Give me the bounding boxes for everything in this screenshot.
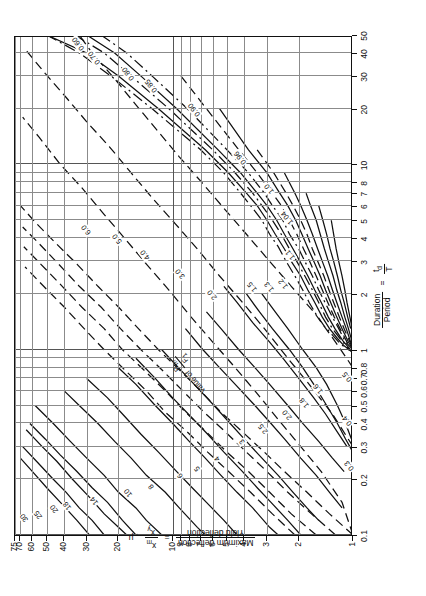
response-curve: [25, 267, 295, 535]
x-tick-mark: [352, 406, 357, 407]
x-tick-label: 8: [359, 181, 369, 186]
response-curve: [306, 193, 352, 342]
x-tick-label: 10: [359, 161, 369, 170]
gridline-vertical: [15, 172, 351, 173]
gridline-vertical: [15, 422, 351, 423]
y-tick-mark: [19, 536, 20, 541]
curve-family: [15, 36, 352, 535]
y-tick-label: 1: [347, 542, 357, 570]
response-curve: [79, 36, 352, 368]
y-axis-ratio: xm xy: [145, 526, 159, 550]
y-axis-ratio-denominator: xy: [145, 526, 159, 538]
x-tick-mark: [352, 206, 357, 207]
x-axis-ratio: td T: [372, 264, 393, 274]
x-tick-mark: [352, 447, 357, 448]
gridline-vertical: [15, 164, 351, 165]
x-tick-mark: [352, 238, 357, 239]
x-tick-mark: [352, 76, 357, 77]
gridline-vertical: [15, 219, 351, 220]
gridline-horizontal: [64, 37, 65, 535]
response-curve: [20, 458, 89, 535]
x-tick-mark: [352, 391, 357, 392]
x-axis-equals: =: [378, 276, 387, 289]
x-tick-label: 3: [359, 260, 369, 265]
x-tick-label: 20: [359, 105, 369, 114]
x-tick-mark: [352, 479, 357, 480]
gridline-horizontal: [299, 37, 300, 535]
x-tick-label: 6: [359, 204, 369, 209]
y-tick-label: 75: [9, 542, 19, 570]
x-axis-ratio-numerator: td: [372, 264, 385, 274]
x-tick-label: 0.1: [359, 530, 369, 542]
x-tick-label: 0.8: [359, 363, 369, 375]
y-axis-title: Maximum deflection Yield deflection = xm…: [60, 526, 320, 550]
x-tick-mark: [352, 261, 357, 262]
x-tick-label: 1: [359, 348, 369, 353]
gridline-vertical: [15, 205, 351, 206]
x-tick-label: 5: [359, 219, 369, 224]
x-axis-ratio-denominator: T: [385, 264, 394, 274]
x-axis-title-fraction: Duration Period: [373, 292, 392, 328]
gridline-vertical: [15, 237, 351, 238]
gridline-horizontal: [181, 37, 182, 535]
gridline-vertical: [15, 181, 351, 182]
x-tick-mark: [352, 165, 357, 166]
y-axis-title-fraction: Maximum deflection Yield deflection: [176, 529, 256, 548]
y-tick-mark: [14, 536, 15, 541]
x-tick-label: 40: [359, 49, 369, 58]
x-axis-title-denominator: Period: [383, 292, 392, 328]
x-tick-mark: [352, 109, 357, 110]
gridline-vertical: [15, 390, 351, 391]
x-tick-label: 50: [359, 31, 369, 40]
gridline-horizontal: [47, 37, 48, 535]
response-curve: [185, 329, 342, 508]
x-tick-mark: [352, 35, 357, 36]
x-tick-mark: [352, 368, 357, 369]
gridline-vertical: [15, 75, 351, 76]
gridline-vertical: [15, 108, 351, 109]
gridline-vertical: [15, 478, 351, 479]
x-tick-label: 0.5: [359, 401, 369, 413]
x-tick-label: 4: [359, 237, 369, 242]
x-tick-mark: [352, 350, 357, 351]
gridline-vertical: [15, 192, 351, 193]
x-tick-label: 2: [359, 293, 369, 298]
gridline-vertical: [15, 260, 351, 261]
x-tick-mark: [352, 220, 357, 221]
gridline-vertical: [15, 446, 351, 447]
x-tick-label: 0.7: [359, 374, 369, 386]
x-tick-label: 0.6: [359, 386, 369, 398]
chart-stage: 0.10.20.30.40.50.60.70.81234567810203040…: [0, 0, 426, 596]
x-tick-label: 30: [359, 72, 369, 81]
x-tick-label: 0.2: [359, 474, 369, 486]
x-tick-mark: [352, 182, 357, 183]
y-axis-ratio-numerator: xm: [145, 538, 159, 551]
x-tick-mark: [352, 193, 357, 194]
x-tick-mark: [352, 294, 357, 295]
rotated-figure-wrapper: 0.10.20.30.40.50.60.70.81234567810203040…: [0, 0, 426, 596]
gridline-horizontal: [118, 37, 119, 535]
gridline-horizontal: [32, 37, 33, 535]
y-tick-label: 60: [26, 542, 36, 570]
gridline-vertical: [15, 293, 351, 294]
x-axis-title: Duration Period = td T: [372, 264, 393, 328]
y-axis-symbol: , μ: [125, 534, 143, 543]
gridline-horizontal: [87, 37, 88, 535]
x-tick-label: 0.4: [359, 419, 369, 431]
y-tick-mark: [352, 536, 353, 541]
x-tick-mark: [352, 53, 357, 54]
response-curve: [23, 117, 352, 535]
y-tick-label: 50: [41, 542, 51, 570]
x-tick-label: 0.3: [359, 442, 369, 454]
figure-page: 0.10.20.30.40.50.60.70.81234567810203040…: [0, 0, 426, 596]
x-tick-label: 7: [359, 192, 369, 197]
gridline-horizontal: [227, 37, 228, 535]
y-tick-mark: [31, 536, 32, 541]
gridline-horizontal: [173, 37, 174, 535]
y-axis-title-numerator: Maximum deflection: [176, 538, 256, 548]
gridline-horizontal: [20, 37, 21, 535]
y-axis-title-denominator: Yield deflection: [176, 529, 256, 538]
gridline-vertical: [15, 52, 351, 53]
response-curve: [319, 206, 351, 329]
plot-area: [14, 36, 352, 536]
